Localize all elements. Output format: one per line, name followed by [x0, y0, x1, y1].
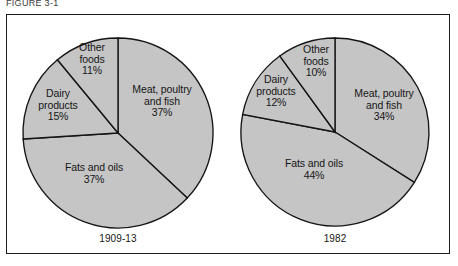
slice-label-meat-left: Meat, poultry and fish 37%	[116, 84, 208, 119]
pie-charts-svg	[0, 0, 458, 266]
caption-1982: 1982	[295, 233, 375, 244]
slice-label-fats-left: Fats and oils 37%	[48, 162, 140, 185]
slice-label-fats-right: Fats and oils 44%	[268, 158, 360, 181]
caption-1909-13: 1909-13	[78, 233, 158, 244]
slice-label-dairy-right: Dairy products 12%	[244, 74, 308, 109]
slice-label-meat-right: Meat, poultry and fish 34%	[338, 88, 430, 123]
slice-label-other-foods-left: Other foods 11%	[62, 42, 122, 77]
figure-root: FIGURE 3-1 Other foods 11% Meat, poultry…	[0, 0, 458, 266]
slice-label-dairy-left: Dairy products 15%	[26, 88, 90, 123]
